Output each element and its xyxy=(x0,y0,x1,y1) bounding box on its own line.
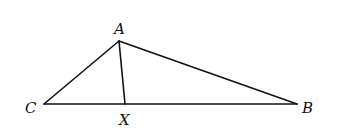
segment-ac xyxy=(44,41,119,104)
label-a: A xyxy=(112,20,125,38)
label-b: B xyxy=(301,99,313,117)
triangle-diagram: A B C X xyxy=(0,0,337,128)
label-x: X xyxy=(118,111,131,128)
label-c: C xyxy=(25,99,37,117)
segment-ax xyxy=(119,41,125,104)
segment-ab xyxy=(119,41,297,104)
